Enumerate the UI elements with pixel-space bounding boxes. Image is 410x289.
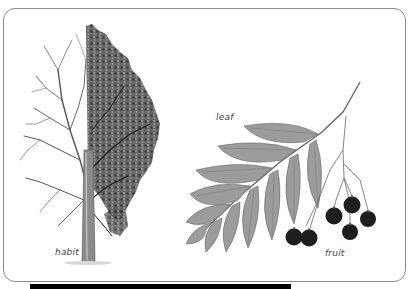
- botanical-illustration: [0, 0, 410, 289]
- leaflet: [286, 154, 300, 224]
- leaflet: [242, 186, 258, 248]
- label-habit: habit: [55, 247, 79, 257]
- berry: [301, 230, 318, 247]
- berry: [326, 208, 343, 225]
- tree-bare-branches: [20, 34, 88, 226]
- bottom-bar: [30, 284, 291, 289]
- tree-habit: [20, 24, 160, 265]
- tree-trunk: [82, 150, 95, 262]
- berry: [286, 229, 303, 246]
- compound-leaf: [186, 82, 360, 252]
- berry: [344, 197, 361, 214]
- leaflet: [196, 164, 272, 183]
- berry: [360, 211, 376, 227]
- berry: [342, 224, 358, 240]
- leaflet: [186, 204, 230, 225]
- label-leaf: leaf: [216, 112, 234, 122]
- leaflet: [190, 184, 250, 205]
- label-fruit: fruit: [325, 248, 345, 258]
